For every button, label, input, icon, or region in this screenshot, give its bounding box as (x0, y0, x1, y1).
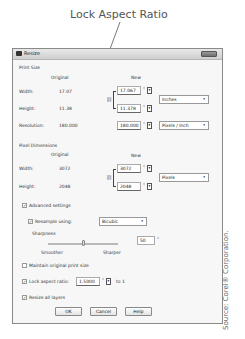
pixel-units-select[interactable]: Pixels ▾ (159, 173, 209, 182)
pixel-chain-link-icon[interactable]: ⛓ (106, 174, 112, 180)
pixel-width-original: 3072 (59, 166, 70, 171)
print-height-spinner[interactable]: ⇕ (142, 104, 146, 112)
print-height-label: Height: (19, 106, 35, 111)
close-button[interactable] (201, 51, 217, 57)
pixel-height-label: Height: (19, 184, 35, 189)
chevron-down-icon: ▾ (203, 96, 205, 103)
pixel-original-header: Original (51, 152, 69, 157)
resize-dialog: Resize Print Size Original New Width: 17… (12, 48, 223, 324)
resolution-label: Resolution: (19, 123, 44, 128)
resample-method-value: Bicubic (102, 219, 118, 224)
pixel-width-spinner[interactable]: ⇕ (142, 164, 146, 172)
resolution-input[interactable]: 180.000 (117, 121, 141, 130)
chain-link-icon[interactable]: ⛓ (106, 96, 112, 102)
print-width-original: 17.07 (59, 89, 72, 94)
print-original-header: Original (51, 75, 69, 80)
resolution-units-value: Pixels / Inch (162, 123, 189, 128)
print-new-header: New (131, 75, 141, 80)
smoother-label: Smoother (41, 250, 63, 255)
resize-all-layers-label: Resize all layers (29, 295, 65, 300)
sharpness-slider-thumb[interactable] (82, 240, 85, 246)
pixel-width-label: Width: (19, 166, 34, 171)
cancel-button[interactable]: Cancel (90, 307, 117, 316)
advanced-settings-checkbox[interactable]: ✓ (22, 203, 27, 208)
pixel-width-input[interactable]: 3072 (117, 164, 141, 173)
link-bracket (113, 91, 116, 109)
resolution-spinner[interactable]: ⇕ (142, 121, 146, 129)
pixel-height-dropdown[interactable]: ▾ (147, 183, 152, 190)
app-icon (16, 51, 22, 56)
pixel-link-bracket (113, 169, 116, 187)
source-credit: Source: Corel® Corporation. (222, 230, 230, 330)
print-size-heading: Print Size (19, 65, 40, 70)
resolution-original: 180.000 (59, 123, 78, 128)
resample-checkbox[interactable]: ✓ (28, 219, 33, 224)
print-width-label: Width: (19, 89, 34, 94)
maintain-print-size-checkbox[interactable] (22, 263, 27, 268)
pixel-height-input[interactable]: 2048 (117, 182, 141, 191)
resample-label: Resample using: (35, 219, 72, 224)
maintain-print-size-label: Maintain original print size (29, 263, 89, 268)
pixel-dimensions-heading: Pixel Dimensions (19, 143, 57, 148)
pixel-new-header: New (131, 153, 141, 158)
chevron-down-icon: ▾ (141, 218, 143, 225)
sharpness-input[interactable]: 50 (137, 236, 155, 245)
resolution-dropdown[interactable]: ▾ (147, 122, 152, 129)
resolution-units-select[interactable]: Pixels / Inch ▾ (159, 121, 209, 130)
pixel-width-dropdown[interactable]: ▾ (147, 165, 152, 172)
lock-aspect-ratio-checkbox[interactable]: ✓ (22, 279, 27, 284)
print-height-dropdown[interactable]: ▾ (147, 105, 152, 112)
dialog-title: Resize (24, 50, 40, 56)
pixel-units-value: Pixels (162, 175, 175, 180)
sharpness-spinner[interactable]: ⇕ (156, 236, 160, 244)
chevron-down-icon: ▾ (203, 122, 205, 129)
callout-label: Lock Aspect Ratio (70, 8, 168, 21)
chevron-down-icon: ▾ (203, 174, 205, 181)
print-units-select[interactable]: Inches ▾ (159, 95, 209, 104)
resize-all-layers-checkbox[interactable]: ✓ (22, 295, 27, 300)
print-units-value: Inches (162, 97, 177, 102)
sharper-label: Sharper (103, 250, 121, 255)
print-width-spinner[interactable]: ⇕ (142, 86, 146, 94)
aspect-ratio-dropdown[interactable]: ▾ (106, 278, 111, 285)
aspect-ratio-spinner[interactable]: ⇕ (101, 277, 105, 285)
print-height-original: 11.38 (59, 106, 72, 111)
print-height-input[interactable]: 11.378 (117, 104, 141, 113)
resample-method-select[interactable]: Bicubic ▾ (99, 217, 147, 226)
pixel-height-spinner[interactable]: ⇕ (142, 182, 146, 190)
print-width-input[interactable]: 17.067 (117, 86, 141, 95)
sharpness-label: Sharpness (32, 231, 55, 236)
aspect-ratio-input[interactable]: 1.5000 (76, 277, 100, 286)
ok-button[interactable]: OK (55, 307, 82, 316)
advanced-settings-label: Advanced settings (29, 203, 71, 208)
print-width-dropdown[interactable]: ▾ (147, 87, 152, 94)
lock-aspect-ratio-label: Lock aspect ratio: (29, 279, 69, 284)
pixel-height-original: 2048 (59, 184, 70, 189)
title-bar: Resize (13, 49, 222, 60)
aspect-ratio-suffix: to 1 (116, 279, 125, 284)
help-button[interactable]: Help (125, 307, 152, 316)
